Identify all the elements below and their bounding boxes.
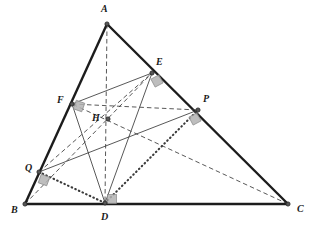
segment-DF: [72, 104, 105, 203]
segment-CF: [72, 104, 288, 204]
point-label-A: A: [101, 4, 108, 14]
point-label-F: F: [57, 95, 64, 105]
vertex-dot-H: [106, 117, 110, 121]
ra-D-right-angle-icon: [108, 195, 117, 204]
vertex-dot-F: [70, 102, 74, 106]
point-label-B: B: [11, 205, 18, 215]
segment-FE: [72, 73, 152, 104]
point-label-E: E: [156, 57, 163, 67]
point-label-H: H: [92, 113, 100, 123]
vertex-dot-C: [286, 202, 290, 206]
ra-Q-right-angle-icon: [38, 174, 50, 186]
point-label-C: C: [297, 204, 304, 214]
geometry-canvas: [0, 0, 317, 229]
ra-F-right-angle-icon: [73, 100, 85, 112]
point-label-P: P: [203, 94, 209, 104]
segment-FP: [72, 104, 198, 110]
vertex-dot-D: [103, 201, 107, 205]
vertex-dots-layer: [23, 22, 290, 206]
vertex-dot-A: [105, 22, 109, 26]
vertex-dot-Q: [37, 170, 41, 174]
segments-layer: [25, 24, 288, 204]
segment-AD: [105, 24, 107, 203]
vertex-dot-P: [196, 108, 200, 112]
vertex-dot-E: [150, 71, 154, 75]
point-label-Q: Q: [25, 163, 32, 173]
geometry-figure: ABCDEFPQH: [0, 0, 317, 229]
point-label-D: D: [101, 212, 108, 222]
segment-DP: [105, 110, 198, 203]
vertex-dot-B: [23, 202, 27, 206]
